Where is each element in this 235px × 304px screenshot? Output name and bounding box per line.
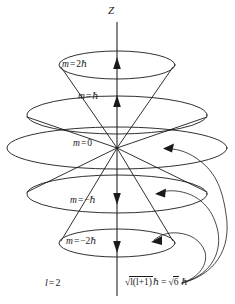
radical-lhs: √l(l+1) (125, 276, 153, 288)
l-value: 2 (55, 277, 60, 288)
cone-label-mn2-hbar: ℏ (90, 236, 96, 246)
arrow-up-icon-lower (113, 95, 121, 107)
cone-label-m1-prefix: m (78, 91, 85, 101)
cone-label-mn1-hbar: ℏ (90, 195, 96, 205)
magnitude-equals: = (159, 277, 168, 287)
cone-label-m2: m=2ℏ (62, 60, 87, 70)
z-axis (113, 22, 121, 296)
cone-label-mn2-prefix: m (66, 236, 73, 246)
cone-label-m1: m=ℏ (78, 92, 98, 102)
cone-label-m0-prefix: m (73, 138, 80, 148)
angular-momentum-magnitude-label: √l(l+1)ℏ=√6ℏ (125, 276, 188, 288)
hbar-rhs: ℏ (179, 277, 187, 287)
z-axis-label: Z (108, 5, 114, 16)
cone-label-m0-value: 0 (87, 138, 92, 148)
cone-label-m2-prefix: m (62, 59, 69, 69)
figure-canvas (0, 0, 235, 304)
radical-rhs: √6 (168, 276, 179, 288)
arrowhead-m0 (163, 144, 174, 153)
cone-label-m0: m=0 (73, 139, 92, 149)
arrow-down-icon-lower (113, 241, 121, 253)
radicand-rhs: 6 (173, 276, 180, 288)
arrowhead-mn2 (151, 236, 162, 245)
cone-label-mn1-prefix: m (70, 195, 77, 205)
cone-label-m1-hbar: ℏ (92, 91, 98, 101)
arrow-up-icon-upper (113, 57, 121, 69)
magnitude-leader-arrows (151, 144, 227, 284)
cone-label-mn2: m=−2ℏ (66, 237, 96, 247)
arrow-down-icon-upper (113, 193, 121, 205)
cone-label-m2-hbar: ℏ (81, 59, 87, 69)
space-quantization-figure: Z m=2ℏ m=ℏ m=0 m=−ℏ m=−2ℏ l=2 √l(l+1)ℏ=√… (0, 0, 235, 304)
cone-label-mn1: m=−ℏ (70, 196, 96, 206)
radicand-lhs: l(l+1) (129, 276, 153, 288)
orbital-quantum-number-label: l=2 (45, 278, 60, 288)
arrowhead-mn1 (155, 189, 166, 198)
cone-label-mn2-value: −2 (80, 236, 90, 246)
